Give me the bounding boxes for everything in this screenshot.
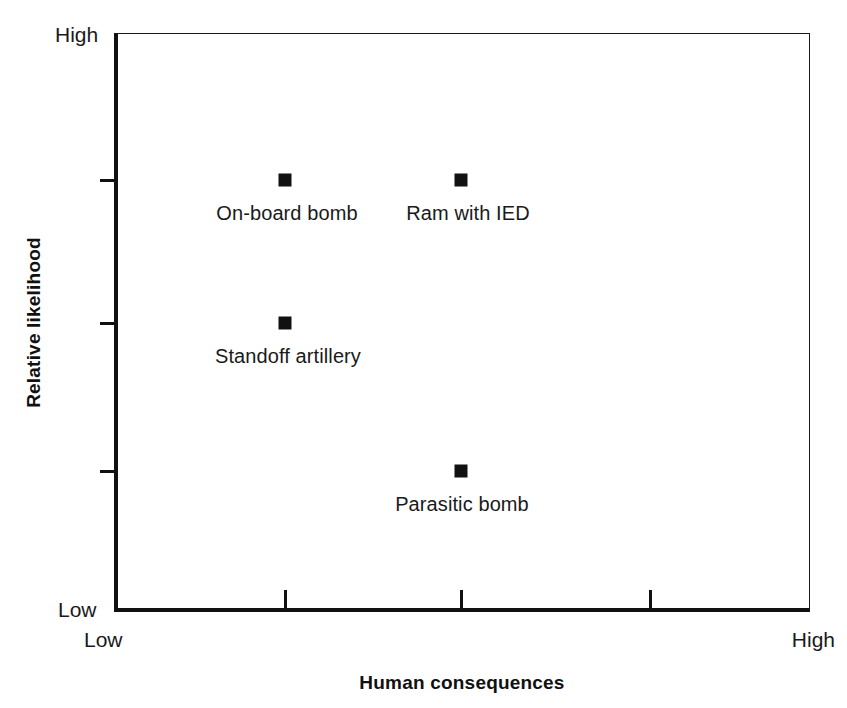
x-axis-tick [649,590,652,612]
data-point-marker[interactable] [279,317,292,330]
data-point-label-ram-with-ied: Ram with IED [406,203,529,223]
x-axis-tick [284,590,287,612]
x-axis-max-label: High [792,629,835,650]
data-point-label-parasitic-bomb: Parasitic bomb [395,494,529,514]
x-axis-title: Human consequences [114,672,810,694]
y-axis-tick [100,322,116,325]
y-axis-title: Relative likelihood [17,33,50,612]
x-axis-tick [460,590,463,612]
data-point-marker[interactable] [455,465,468,478]
data-point-marker[interactable] [455,174,468,187]
y-axis-min-label: Low [58,599,97,620]
y-axis-tick [100,179,116,182]
data-point-label-standoff-artillery: Standoff artillery [215,346,361,366]
x-axis-min-label: Low [84,629,123,650]
y-axis-tick [100,470,116,473]
y-axis-max-label: High [55,24,98,45]
data-point-marker[interactable] [279,174,292,187]
risk-matrix-chart: On-board bomb Ram with IED Standoff arti… [0,0,847,708]
plot-area [114,33,810,612]
data-point-label-on-board-bomb: On-board bomb [216,203,357,223]
